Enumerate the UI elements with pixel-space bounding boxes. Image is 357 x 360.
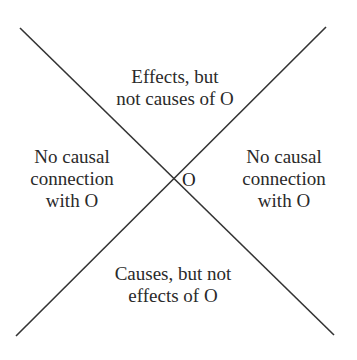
region-bottom-line-1: Causes, but not [115, 263, 232, 285]
region-right-no-connection: No causal connection with O [242, 146, 325, 212]
region-left-line-3: with O [30, 190, 113, 212]
region-top-line-2: not causes of O [116, 88, 234, 110]
region-right-line-3: with O [242, 190, 325, 212]
origin-label: O [182, 170, 196, 190]
region-top-line-1: Effects, but [116, 66, 234, 88]
region-left-no-connection: No causal connection with O [30, 146, 113, 212]
region-top-effects: Effects, but not causes of O [116, 66, 234, 110]
causal-diagram: Effects, but not causes of O No causal c… [0, 0, 357, 360]
region-bottom-causes: Causes, but not effects of O [115, 263, 232, 307]
region-left-line-2: connection [30, 168, 113, 190]
region-left-line-1: No causal [30, 146, 113, 168]
region-right-line-1: No causal [242, 146, 325, 168]
region-right-line-2: connection [242, 168, 325, 190]
region-bottom-line-2: effects of O [115, 285, 232, 307]
